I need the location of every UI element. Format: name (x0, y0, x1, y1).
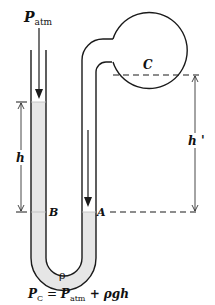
u-tube-inner-wall (46, 39, 113, 276)
density-label: ρ (59, 269, 65, 282)
liquid-fill (31, 102, 96, 291)
bulb-c (113, 12, 187, 88)
point-b-label: B (48, 206, 58, 219)
manometer-diagram: Patm C h h ' B A ρ PC = Patm + ρgh (0, 0, 215, 305)
h-label: h (16, 151, 25, 165)
right-tube-arrow-head (84, 197, 92, 207)
pressure-formula: PC = Patm + ρgh (27, 287, 129, 303)
p-atm-label: Patm (23, 9, 53, 27)
point-a-label: A (96, 206, 106, 219)
h-prime-label: h ' (188, 134, 205, 148)
p-atm-arrow-head (35, 89, 43, 99)
bulb-label: C (143, 58, 153, 72)
